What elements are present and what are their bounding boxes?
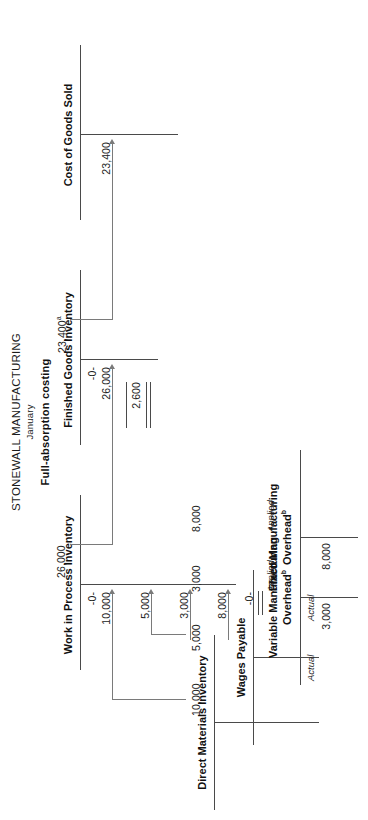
wip-debit-labor: 5,000 (139, 592, 151, 670)
arrow-voh-to-wip-head (187, 589, 193, 594)
foh-title-line2: Overhead (280, 514, 292, 565)
wip-beginning-balance: -0- (86, 592, 98, 670)
arrow-materials-to-wip-riser (112, 699, 186, 700)
arrow-materials-to-wip-head (109, 589, 115, 594)
t-account-title-wages-payable: Wages Payable (235, 570, 248, 745)
wages-credit-amount: 5,000 (190, 624, 202, 651)
foh-title-footnote: b (280, 510, 287, 514)
page-title-period: January (24, 292, 35, 552)
fg-credit-cogs-amount: 23,400 (56, 320, 68, 353)
arrow-fg-to-cogs-line (112, 142, 113, 320)
arrow-materials-to-wip-line (112, 592, 113, 700)
fg-credit-cost-of-goods-sold: 23,400a (55, 316, 68, 353)
wip-debit-fixed-overhead: 8,000 (216, 592, 228, 670)
wip-debit-materials: 10,000 (100, 592, 112, 670)
arrow-voh-to-wip-line (190, 592, 191, 640)
t-bar-wages-payable (253, 570, 254, 745)
arrow-wages-to-wip-head (148, 589, 154, 594)
dm-credit-amount: 10,000 (190, 683, 202, 716)
wip-ending-balance-double-rule (258, 591, 263, 615)
t-account-title-fixed-overhead: Fixed ManufacturingOverheadb (267, 450, 293, 625)
t-bar-direct-materials (214, 635, 215, 810)
fg-ending-balance: 2,600 (130, 382, 142, 445)
t-bar-fixed-overhead (300, 450, 301, 625)
fg-debit-transferred-in: 26,000 (100, 367, 112, 445)
arrow-wip-to-fg-riser (70, 544, 112, 545)
t-account-flow-diagram: STONEWALL MANUFACTURING January Full-abs… (0, 0, 368, 820)
arrow-wip-to-fg-line (112, 367, 113, 545)
t-bar-work-in-process (80, 495, 81, 670)
voh-debit-label: Actual (305, 655, 316, 681)
arrow-wip-to-fg-head (109, 364, 115, 369)
t-stem-cost-of-goods-sold (80, 134, 178, 135)
t-stem-fixed-overhead (300, 537, 358, 538)
wip-debit-variable-overhead: 3,000 (178, 592, 190, 670)
arrow-foh-to-wip-line (228, 592, 229, 640)
cogs-debit-amount: 23,400 (100, 142, 112, 220)
arrow-fg-to-cogs-riser (70, 319, 112, 320)
t-bar-finished-goods (80, 270, 81, 445)
t-account-title-direct-materials: Direct Materials Inventory (196, 635, 209, 810)
t-account-title-finished-goods: Finished Goods Inventory (62, 275, 75, 445)
fg-ending-balance-double-rule (146, 382, 151, 428)
wip-credit-transferred-out: 26,000 (55, 545, 67, 578)
voh-credit-amount: 3,000 (190, 565, 202, 592)
foh-credit-amount: 8,000 (190, 505, 202, 532)
page-title-company: STONEWALL MANUFACTURING (10, 292, 22, 552)
page-title-method: Full-absorption costing (39, 292, 51, 552)
fg-credit-cogs-footnote: a (55, 316, 62, 320)
fg-beginning-balance: -0- (86, 367, 98, 445)
t-bar-cost-of-goods-sold (80, 45, 81, 220)
foh-debit-amount: 8,000 (320, 543, 332, 621)
arrow-fg-to-cogs-head (109, 139, 115, 144)
fg-ending-balance-single-rule (126, 382, 127, 428)
t-account-title-cost-of-goods-sold: Cost of Goods Sold (62, 50, 75, 220)
foh-debit-label: Actual (305, 595, 316, 621)
arrow-wages-to-wip-riser (151, 634, 186, 635)
t-stem-work-in-process (80, 584, 236, 585)
t-stem-direct-materials (214, 722, 319, 723)
arrow-foh-to-wip-head (225, 589, 231, 594)
arrow-wages-to-wip-line (151, 592, 152, 635)
foh-credit-label: Applied (265, 500, 276, 532)
t-account-title-work-in-process: Work in Process Inventory (62, 500, 75, 670)
t-stem-finished-goods (80, 359, 158, 360)
rotated-diagram-wrapper: STONEWALL MANUFACTURING January Full-abs… (0, 0, 368, 820)
